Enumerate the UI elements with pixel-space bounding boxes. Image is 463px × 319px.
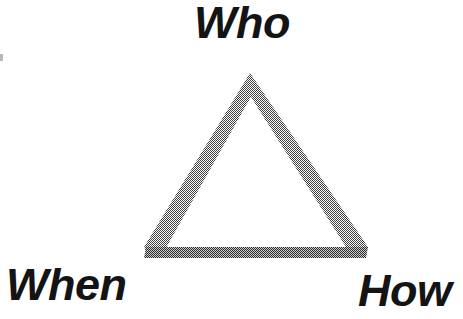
scan-artifact-icon: [0, 54, 3, 61]
triangle-base-edge: [144, 247, 368, 258]
triangle-label-who: Who: [194, 0, 290, 45]
triangle-right-edge: [244, 73, 368, 255]
triangle-left-edge: [144, 73, 257, 255]
diagram-canvas: Who When How: [0, 0, 463, 319]
triangle-label-when: When: [6, 262, 126, 307]
triangle-label-how: How: [358, 268, 452, 313]
